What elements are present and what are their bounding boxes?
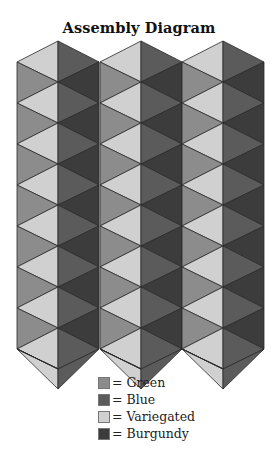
blue-swatch — [98, 394, 110, 406]
green-swatch — [98, 377, 110, 389]
burgundy-swatch — [98, 428, 110, 440]
legend: = Green = Blue = Variegated = Burgundy — [98, 374, 195, 442]
legend-item-variegated: = Variegated — [98, 408, 195, 425]
legend-item-green: = Green — [98, 374, 195, 391]
legend-item-burgundy: = Burgundy — [98, 425, 195, 442]
legend-label: = Burgundy — [112, 426, 189, 441]
legend-label: = Variegated — [112, 409, 195, 424]
legend-label: = Green — [112, 375, 165, 390]
variegated-swatch — [98, 411, 110, 423]
legend-label: = Blue — [112, 392, 155, 407]
legend-item-blue: = Blue — [98, 391, 195, 408]
